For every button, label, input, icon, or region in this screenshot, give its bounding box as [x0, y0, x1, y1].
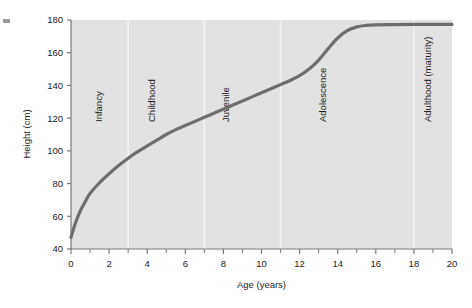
y-tick-label: 100: [47, 145, 63, 156]
stage-label: Juvenile: [220, 87, 231, 122]
x-tick-label: 2: [106, 258, 111, 269]
x-axis-tick-labels: 02468101214161820: [68, 258, 457, 269]
stage-label: Adolescence: [317, 68, 328, 122]
y-tick-label: 40: [52, 243, 63, 254]
y-axis-title: Height (cm): [21, 109, 32, 158]
y-tick-label: 80: [52, 178, 63, 189]
x-tick-label: 12: [294, 258, 305, 269]
x-tick-label: 16: [371, 258, 382, 269]
growth-curve-figure: 406080100120140160180 02468101214161820 …: [0, 0, 472, 308]
stage-label: Infancy: [93, 91, 104, 122]
y-tick-label: 140: [47, 80, 63, 91]
x-axis-title: Age (years): [237, 279, 286, 290]
page-artifact-mark: [3, 19, 10, 23]
stage-label: Adulthood (maturity): [422, 36, 433, 122]
y-tick-label: 120: [47, 113, 63, 124]
y-tick-label: 60: [52, 211, 63, 222]
x-tick-label: 20: [447, 258, 458, 269]
x-tick-label: 14: [332, 258, 343, 269]
x-tick-label: 0: [68, 258, 73, 269]
x-tick-label: 4: [145, 258, 150, 269]
x-tick-label: 8: [221, 258, 226, 269]
x-axis-ticks: [71, 249, 452, 254]
y-axis-tick-labels: 406080100120140160180: [47, 14, 63, 254]
x-tick-label: 6: [183, 258, 188, 269]
x-tick-label: 10: [256, 258, 267, 269]
x-tick-label: 18: [409, 258, 420, 269]
y-tick-label: 180: [47, 14, 63, 25]
height-vs-age-chart: 406080100120140160180 02468101214161820 …: [0, 0, 472, 308]
y-tick-label: 160: [47, 47, 63, 58]
stage-label: Childhood: [146, 79, 157, 122]
